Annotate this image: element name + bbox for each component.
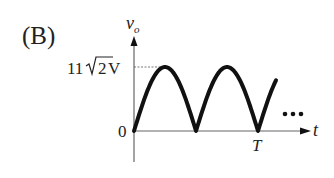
y-axis-arrow-icon (131, 36, 138, 46)
svg-text:11: 11 (67, 59, 83, 78)
chart-canvas: (B) vo 11 2 V 0 T t (0, 0, 334, 178)
figure: (B) vo 11 2 V 0 T t (0, 0, 334, 178)
y-tick-peak-label: 11 2 V (67, 57, 121, 78)
x-axis-label: t (313, 120, 319, 140)
x-tick-period-label: T (252, 136, 263, 155)
svg-text:V: V (108, 59, 121, 78)
y-tick-zero-label: 0 (118, 122, 127, 141)
x-axis-arrow-icon (300, 128, 311, 135)
continuation-ellipsis-icon (283, 112, 304, 117)
figure-label: (B) (22, 22, 55, 50)
y-axis-label: vo (126, 13, 140, 35)
svg-text:2: 2 (98, 59, 107, 78)
rectified-sine-waveform (134, 67, 276, 131)
